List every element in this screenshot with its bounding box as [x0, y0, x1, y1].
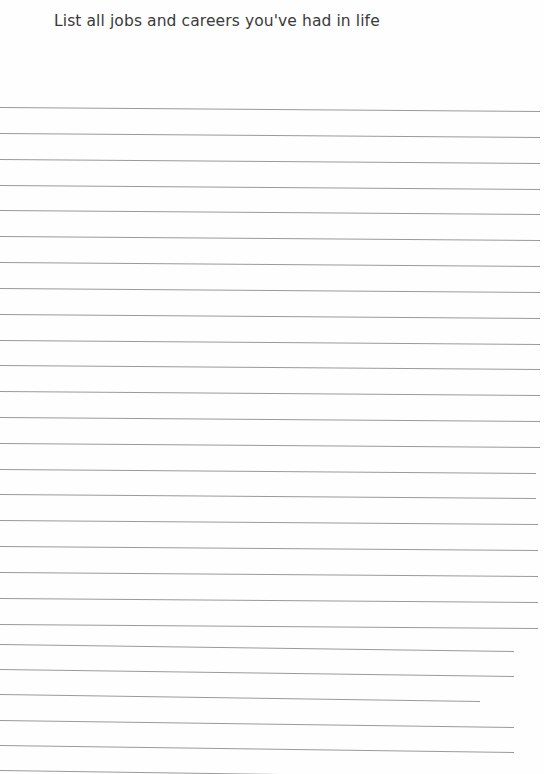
writing-line-21[interactable] [0, 603, 540, 625]
writing-line-18[interactable] [0, 525, 540, 547]
writing-line-2[interactable] [0, 112, 540, 134]
writing-line [0, 521, 538, 525]
writing-line-23[interactable] [0, 648, 540, 670]
writing-line-22[interactable] [0, 623, 540, 645]
writing-line-3[interactable] [0, 138, 540, 160]
writing-line-25[interactable] [0, 699, 540, 721]
writing-line [0, 547, 538, 551]
writing-line-12[interactable] [0, 370, 540, 392]
writing-line-15[interactable] [0, 448, 540, 470]
writing-line-1[interactable] [0, 86, 540, 108]
writing-line [0, 495, 536, 499]
writing-line-8[interactable] [0, 267, 540, 289]
writing-line [0, 771, 280, 774]
writing-line-11[interactable] [0, 344, 540, 366]
writing-line-10[interactable] [0, 319, 540, 341]
writing-line-17[interactable] [0, 499, 540, 521]
writing-line [0, 134, 540, 138]
writing-line [0, 211, 540, 215]
writing-line [0, 392, 540, 396]
writing-line [0, 599, 538, 603]
writing-line-26[interactable] [0, 724, 540, 746]
writing-line [0, 444, 540, 448]
writing-line [0, 160, 540, 164]
writing-line [0, 573, 538, 577]
writing-line [0, 289, 540, 293]
writing-line [0, 315, 540, 319]
writing-line [0, 263, 540, 267]
writing-line-7[interactable] [0, 241, 540, 263]
writing-line [0, 418, 540, 422]
writing-line-24[interactable] [0, 673, 540, 695]
writing-line-6[interactable] [0, 215, 540, 237]
writing-line-4[interactable] [0, 164, 540, 186]
writing-line [0, 108, 540, 112]
writing-line-9[interactable] [0, 293, 540, 315]
writing-line-19[interactable] [0, 551, 540, 573]
worksheet-page: List all jobs and careers you've had in … [0, 0, 544, 774]
writing-line-20[interactable] [0, 577, 540, 599]
writing-line-13[interactable] [0, 396, 540, 418]
writing-line [0, 366, 540, 370]
writing-line-16[interactable] [0, 473, 540, 495]
writing-line [0, 237, 540, 241]
writing-line-27[interactable] [0, 749, 540, 771]
writing-line-14[interactable] [0, 422, 540, 444]
writing-line-5[interactable] [0, 189, 540, 211]
